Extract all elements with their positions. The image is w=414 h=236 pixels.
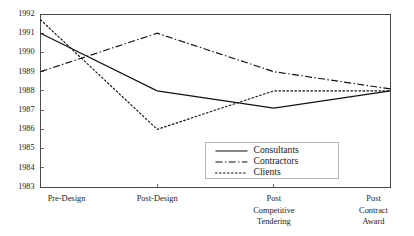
chart-canvas: 1983198419851986198719881989199019911992…	[0, 0, 414, 236]
x-tick-label: Competitive	[253, 206, 295, 215]
line-chart: 1983198419851986198719881989199019911992…	[0, 0, 414, 236]
x-tick-label: Tendering	[257, 217, 292, 226]
x-tick-label: Post	[366, 194, 381, 203]
y-tick-label: 1992	[18, 9, 34, 18]
x-tick-label: Contract	[359, 206, 389, 215]
x-axis-labels: Pre-DesignPost-DesignPostCompetitiveTend…	[48, 194, 389, 226]
y-tick-label: 1988	[18, 86, 34, 95]
y-tick-label: 1983	[18, 182, 34, 191]
series-lines	[41, 20, 391, 130]
y-tick-label: 1984	[18, 163, 34, 172]
y-tick-label: 1986	[18, 124, 34, 133]
y-tick-label: 1987	[18, 105, 34, 114]
series-line-contractors	[41, 33, 391, 89]
series-line-clients	[41, 20, 391, 130]
y-tick-label: 1990	[18, 47, 34, 56]
x-tick-label: Pre-Design	[48, 194, 86, 203]
chart-legend: ConsultantsContractorsClients	[206, 143, 339, 179]
x-tick-label: Award	[362, 217, 385, 226]
legend-label-clients: Clients	[254, 166, 281, 177]
x-tick-label: Post	[267, 194, 282, 203]
x-tick-label: Post-Design	[137, 194, 179, 203]
legend-label-contractors: Contractors	[254, 155, 299, 166]
legend-label-consultants: Consultants	[254, 144, 300, 155]
y-axis-ticks: 1983198419851986198719881989199019911992	[18, 9, 43, 191]
y-tick-label: 1991	[18, 28, 34, 37]
y-tick-label: 1989	[18, 67, 34, 76]
series-line-consultants	[41, 33, 391, 108]
y-tick-label: 1985	[18, 143, 34, 152]
